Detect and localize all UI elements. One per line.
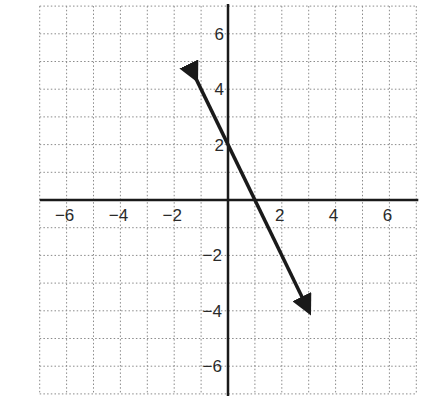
x-tick-label: −6 xyxy=(55,206,74,225)
x-tick-label: 4 xyxy=(329,206,338,225)
y-tick-label: −4 xyxy=(203,302,222,321)
y-tick-label: 6 xyxy=(215,25,224,44)
coordinate-graph: −6−4−2246642−2−4−6 xyxy=(0,0,445,419)
y-tick-label: 4 xyxy=(215,80,224,99)
x-tick-label: 2 xyxy=(275,206,284,225)
x-tick-label: 6 xyxy=(383,206,392,225)
y-tick-label: −2 xyxy=(203,246,222,265)
x-tick-label: −4 xyxy=(109,206,128,225)
y-tick-label: −6 xyxy=(203,357,222,376)
y-tick-label: 2 xyxy=(215,136,224,155)
series-line xyxy=(196,78,309,311)
x-tick-label: −2 xyxy=(163,206,182,225)
axes xyxy=(40,4,419,396)
data-series xyxy=(196,78,309,311)
